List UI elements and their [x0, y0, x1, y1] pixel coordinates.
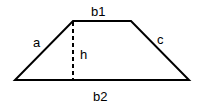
label-h: h [80, 47, 87, 62]
trapezoid-diagram: b1 a h c b2 [0, 0, 199, 107]
label-b1: b1 [91, 4, 105, 19]
label-c: c [157, 32, 164, 47]
label-b2: b2 [93, 89, 107, 104]
trapezoid-outline [15, 21, 189, 80]
label-a: a [33, 35, 41, 50]
